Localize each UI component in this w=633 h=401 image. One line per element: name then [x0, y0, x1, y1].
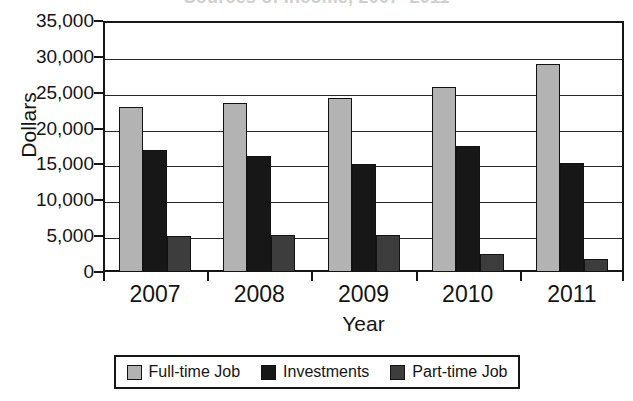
- legend-swatch-icon: [261, 365, 276, 380]
- y-axis-tick-mark: [94, 271, 103, 273]
- y-axis-tick-label: 10,000: [6, 190, 94, 209]
- legend-item[interactable]: Part-time Job: [390, 364, 507, 380]
- x-axis-tick-labels: 20072008200920102011: [103, 280, 624, 310]
- x-axis-tick-label: 2009: [311, 280, 415, 308]
- y-axis-tick-mark: [94, 92, 103, 94]
- gridline: [105, 59, 622, 60]
- y-axis-tick-label: 15,000: [6, 154, 94, 173]
- plot-area: [103, 21, 624, 272]
- x-axis-tick-label: 2011: [520, 280, 624, 308]
- legend-swatch-icon: [127, 365, 142, 380]
- y-axis-tick-label: 25,000: [6, 83, 94, 102]
- gridline: [105, 166, 622, 167]
- legend-label: Part-time Job: [412, 364, 507, 380]
- y-axis-tick-label: 5,000: [6, 226, 94, 245]
- chart-title: Sources of Income, 2007–2011: [0, 0, 633, 8]
- y-axis-tick-labels: 35,00030,00025,00020,00015,00010,0005,00…: [0, 0, 94, 401]
- y-axis-tick-mark: [94, 235, 103, 237]
- y-axis-tick-mark: [94, 163, 103, 165]
- gridline: [105, 95, 622, 96]
- x-axis-tick-label: 2007: [103, 280, 207, 308]
- y-axis-tick-label: 35,000: [6, 11, 94, 30]
- gridline: [105, 202, 622, 203]
- legend-label: Investments: [283, 364, 369, 380]
- legend-item[interactable]: Investments: [261, 364, 369, 380]
- x-axis-tick-label: 2008: [207, 280, 311, 308]
- y-axis-tick-mark: [94, 199, 103, 201]
- gridline: [105, 238, 622, 239]
- y-axis-tick-mark: [94, 128, 103, 130]
- y-axis-tick-label: 30,000: [6, 47, 94, 66]
- y-axis-tick-mark: [94, 56, 103, 58]
- y-axis-tick-label: 0: [6, 262, 94, 281]
- gridline: [105, 131, 622, 132]
- legend-item[interactable]: Full-time Job: [127, 364, 241, 380]
- x-axis-tick-label: 2010: [416, 280, 520, 308]
- legend-swatch-icon: [390, 365, 405, 380]
- chart-legend: Full-time JobInvestmentsPart-time Job: [114, 355, 520, 389]
- x-axis-title: Year: [103, 312, 624, 336]
- bar-chart: Sources of Income, 2007–2011 Dollars 35,…: [0, 0, 633, 401]
- y-axis-tick-mark: [94, 20, 103, 22]
- y-axis-tick-label: 20,000: [6, 119, 94, 138]
- legend-label: Full-time Job: [149, 364, 241, 380]
